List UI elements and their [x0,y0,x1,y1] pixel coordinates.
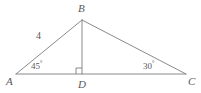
right-angle-mark-icon [76,68,82,74]
segment-BC [82,20,186,74]
vertex-label-A: A [6,76,13,87]
angle-value-C: 30 [143,61,152,71]
segment-AB [16,20,82,74]
side-label-AB-length: 4 [36,31,41,41]
geometry-figure-canvas: A B C D 4 45° 30° [0,0,201,93]
degree-symbol-icon-C: ° [152,60,154,66]
vertex-label-B: B [78,3,85,14]
angle-value-A: 45 [31,61,40,71]
angle-label-A: 45° [31,62,42,71]
angle-label-C: 30° [143,62,154,71]
triangle-diagram-svg [0,0,201,93]
vertex-label-D: D [78,79,86,90]
degree-symbol-icon-A: ° [40,60,42,66]
vertex-label-C: C [188,76,195,87]
